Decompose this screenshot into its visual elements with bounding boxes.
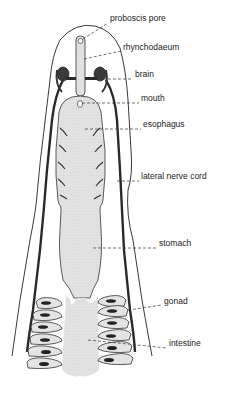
- rhynchodaeum-structure: [76, 36, 85, 96]
- leader-gonad: [128, 305, 162, 310]
- label-rhynchodaeum: rhynchodaeum: [123, 42, 179, 52]
- nemertean-anatomy-diagram: proboscis pore rhynchodaeum brain mouth …: [0, 0, 225, 399]
- gonads-right: [98, 296, 133, 365]
- mouth-opening: [78, 101, 83, 108]
- label-gonad: gonad: [164, 296, 188, 306]
- label-brain: brain: [135, 69, 154, 79]
- label-proboscis-pore: proboscis pore: [110, 13, 166, 23]
- label-stomach: stomach: [159, 238, 191, 248]
- label-intestine: intestine: [169, 338, 201, 348]
- esophagus-structure: [56, 96, 106, 298]
- label-mouth: mouth: [141, 93, 165, 103]
- intestine-structure: [62, 296, 99, 376]
- leader-rhynchodaeum: [84, 51, 121, 59]
- label-lateral-nerve-cord: lateral nerve cord: [141, 171, 207, 181]
- label-esophagus: esophagus: [143, 119, 185, 129]
